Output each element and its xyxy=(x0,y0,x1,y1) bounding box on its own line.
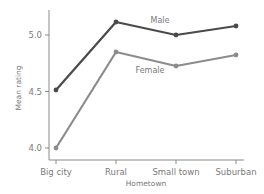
x-tick-label: Suburban xyxy=(215,167,256,177)
series-female xyxy=(54,50,239,151)
y-ticks xyxy=(45,35,49,148)
y-axis-title: Mean rating xyxy=(14,65,23,110)
y-tick-label: 4.5 xyxy=(28,87,42,97)
female-marker xyxy=(54,146,59,151)
x-tick-label: Big city xyxy=(40,167,72,177)
female-marker xyxy=(174,64,179,69)
x-ticks xyxy=(56,160,236,164)
male-series-label: Male xyxy=(151,16,170,25)
series-male xyxy=(54,20,239,93)
x-axis-title: Hometown xyxy=(126,179,167,188)
y-tick-label: 5.0 xyxy=(28,30,42,40)
female-marker xyxy=(114,50,119,55)
y-tick-label: 4.0 xyxy=(28,143,42,153)
male-marker xyxy=(174,33,179,38)
male-marker xyxy=(114,20,119,25)
female-marker xyxy=(234,53,239,58)
male-line xyxy=(56,22,236,90)
line-chart: 4.0 4.5 5.0 Big city Rural Small town Su… xyxy=(0,0,264,194)
x-tick-label: Small town xyxy=(152,167,199,177)
male-marker xyxy=(54,88,59,93)
male-marker xyxy=(234,24,239,29)
female-series-label: Female xyxy=(136,66,165,75)
x-tick-label: Rural xyxy=(105,167,127,177)
